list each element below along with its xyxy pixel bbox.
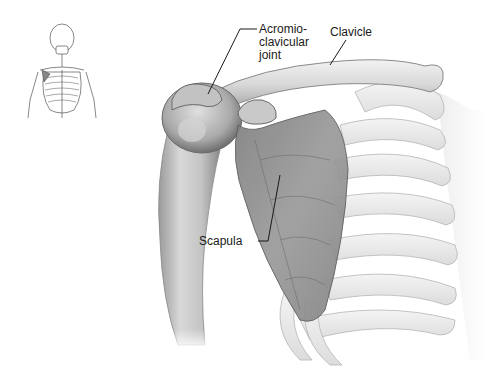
label-clavicle: Clavicle [330,26,372,39]
label-scapula: Scapula [199,235,242,248]
skeleton-inset [28,24,96,118]
label-acromioclavicular-joint: Acromio- clavicular joint [259,23,309,62]
shoulder-illustration [0,0,485,370]
humerus-bone [150,83,242,350]
coracoid [238,100,276,124]
anatomy-figure: Acromio- clavicular joint Clavicle Scapu… [0,0,485,370]
label-line-3: joint [259,49,309,62]
